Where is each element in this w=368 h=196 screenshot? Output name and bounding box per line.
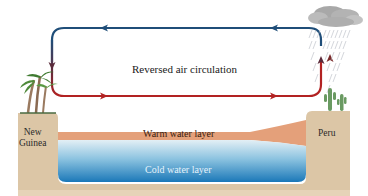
peru-label: Peru xyxy=(318,128,335,138)
storm-cloud-icon xyxy=(308,6,363,27)
cold-water-layer-label: Cold water layer xyxy=(145,164,212,175)
new-guinea-label-line2: Guinea xyxy=(19,138,46,149)
new-guinea-label: New Guinea xyxy=(19,127,46,149)
left-descending-flow xyxy=(52,40,80,96)
diagram-title: Reversed air circulation xyxy=(132,63,237,75)
warm-water-layer-label: Warm water layer xyxy=(143,128,214,139)
cold-water-layer xyxy=(58,140,306,182)
rain-icon xyxy=(309,30,350,93)
upper-air-flow xyxy=(52,28,321,62)
new-guinea-label-line1: New xyxy=(19,127,46,138)
